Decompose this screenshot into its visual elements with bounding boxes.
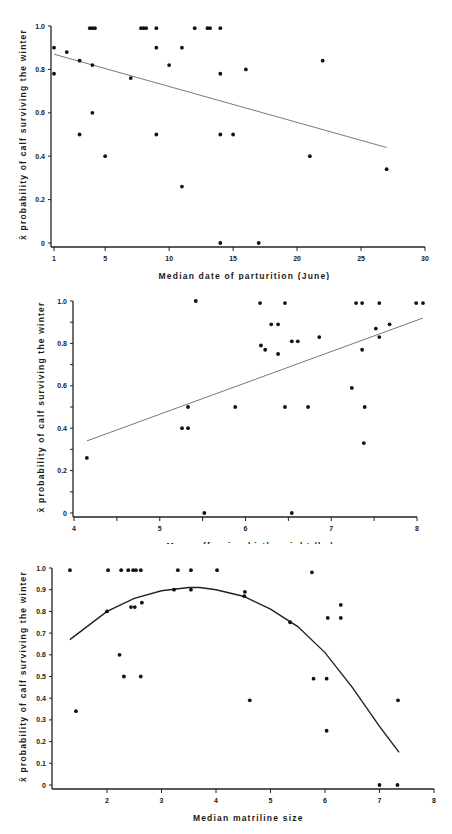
data-point bbox=[90, 63, 94, 67]
data-point bbox=[52, 72, 56, 76]
data-point bbox=[362, 441, 366, 445]
data-point bbox=[248, 698, 252, 702]
data-point bbox=[388, 322, 392, 326]
x-tick-label: 25 bbox=[357, 255, 365, 262]
data-point bbox=[276, 352, 280, 356]
y-tick-label: 0.1 bbox=[36, 760, 46, 767]
x-tick-label: 8 bbox=[432, 797, 436, 804]
data-point bbox=[339, 616, 343, 620]
fit-line bbox=[87, 318, 423, 441]
data-point bbox=[377, 335, 381, 339]
data-point bbox=[269, 322, 273, 326]
data-point bbox=[363, 405, 367, 409]
data-point bbox=[360, 348, 364, 352]
x-axis-label: Median matriline size bbox=[193, 813, 304, 823]
data-point bbox=[105, 610, 109, 614]
y-tick-label: 0 bbox=[42, 782, 46, 789]
data-point bbox=[78, 59, 82, 63]
data-point bbox=[378, 783, 382, 787]
x-tick-label: 6 bbox=[323, 797, 327, 804]
x-tick-label: 3 bbox=[160, 797, 164, 804]
y-tick-label: 1.0 bbox=[57, 298, 67, 305]
y-tick-label: 0.4 bbox=[35, 153, 45, 160]
data-point bbox=[374, 327, 378, 331]
data-point bbox=[218, 72, 222, 76]
data-point bbox=[276, 322, 280, 326]
data-point bbox=[194, 299, 198, 303]
data-point bbox=[193, 26, 197, 30]
data-point bbox=[119, 568, 123, 572]
x-tick-label: 10 bbox=[165, 255, 173, 262]
x-tick-label: 6 bbox=[244, 525, 248, 532]
data-point bbox=[283, 301, 287, 305]
x-tick-label: 7 bbox=[329, 525, 333, 532]
y-tick-label: 0.7 bbox=[36, 630, 46, 637]
data-point bbox=[263, 348, 267, 352]
y-tick-label: 1.0 bbox=[35, 23, 45, 30]
y-tick-label: 0.5 bbox=[36, 673, 46, 680]
data-point bbox=[154, 133, 158, 137]
x-tick-label: 5 bbox=[269, 797, 273, 804]
data-point bbox=[350, 386, 354, 390]
y-axis-label: x̄ probability of calf surviving the win… bbox=[18, 29, 28, 240]
y-tick-label: 1.0 bbox=[36, 565, 46, 572]
data-point bbox=[325, 677, 329, 681]
data-point bbox=[90, 111, 94, 115]
data-point bbox=[396, 698, 400, 702]
x-tick-label: 5 bbox=[158, 525, 162, 532]
data-point bbox=[257, 241, 261, 245]
data-point bbox=[126, 568, 130, 572]
data-point bbox=[180, 46, 184, 50]
data-point bbox=[321, 59, 325, 63]
x-tick-label: 4 bbox=[214, 797, 218, 804]
data-point bbox=[133, 605, 137, 609]
data-point bbox=[218, 241, 222, 245]
y-tick-label: 0.3 bbox=[36, 716, 46, 723]
x-tick-label: 4 bbox=[72, 525, 76, 532]
x-tick-label: 8 bbox=[415, 525, 419, 532]
y-tick-label: 0.6 bbox=[36, 651, 46, 658]
y-tick-label: 0.4 bbox=[36, 695, 46, 702]
x-tick-label: 5 bbox=[103, 255, 107, 262]
data-point bbox=[385, 167, 389, 171]
y-tick-label: 0 bbox=[63, 510, 67, 517]
y-tick-label: 0.6 bbox=[35, 109, 45, 116]
y-axis-label: x̄ probability of calf surviving the win… bbox=[18, 571, 28, 782]
y-tick-label: 0.6 bbox=[57, 382, 67, 389]
y-tick-label: 0.8 bbox=[36, 608, 46, 615]
data-point bbox=[154, 46, 158, 50]
x-tick-label: 1 bbox=[52, 255, 56, 262]
y-axis-label: x̄ probability of calf surviving the win… bbox=[36, 302, 46, 513]
data-point bbox=[326, 616, 330, 620]
chart-svg-0: 00.20.40.60.81.0151015202530Median date … bbox=[0, 0, 452, 280]
data-point bbox=[180, 185, 184, 189]
data-point bbox=[290, 511, 294, 515]
data-point bbox=[129, 605, 133, 609]
data-point bbox=[68, 568, 72, 572]
data-point bbox=[154, 26, 158, 30]
data-point bbox=[167, 63, 171, 67]
x-tick-label: 30 bbox=[421, 255, 429, 262]
data-point bbox=[377, 301, 381, 305]
y-tick-label: 0.9 bbox=[36, 586, 46, 593]
data-point bbox=[129, 76, 133, 80]
fit-line bbox=[70, 588, 399, 753]
data-point bbox=[290, 339, 294, 343]
data-point bbox=[231, 133, 235, 137]
data-point bbox=[283, 405, 287, 409]
y-tick-label: 0.2 bbox=[36, 738, 46, 745]
x-axis-label: Median date of parturition (June) bbox=[159, 271, 331, 280]
data-point bbox=[85, 456, 89, 460]
data-point bbox=[421, 301, 425, 305]
data-point bbox=[139, 568, 143, 572]
y-tick-label: 0.2 bbox=[57, 467, 67, 474]
data-point bbox=[296, 339, 300, 343]
x-tick-label: 2 bbox=[105, 797, 109, 804]
data-point bbox=[288, 620, 292, 624]
data-point bbox=[176, 568, 180, 572]
data-point bbox=[354, 301, 358, 305]
data-point bbox=[140, 601, 144, 605]
data-point bbox=[180, 426, 184, 430]
data-point bbox=[306, 405, 310, 409]
data-point bbox=[189, 588, 193, 592]
